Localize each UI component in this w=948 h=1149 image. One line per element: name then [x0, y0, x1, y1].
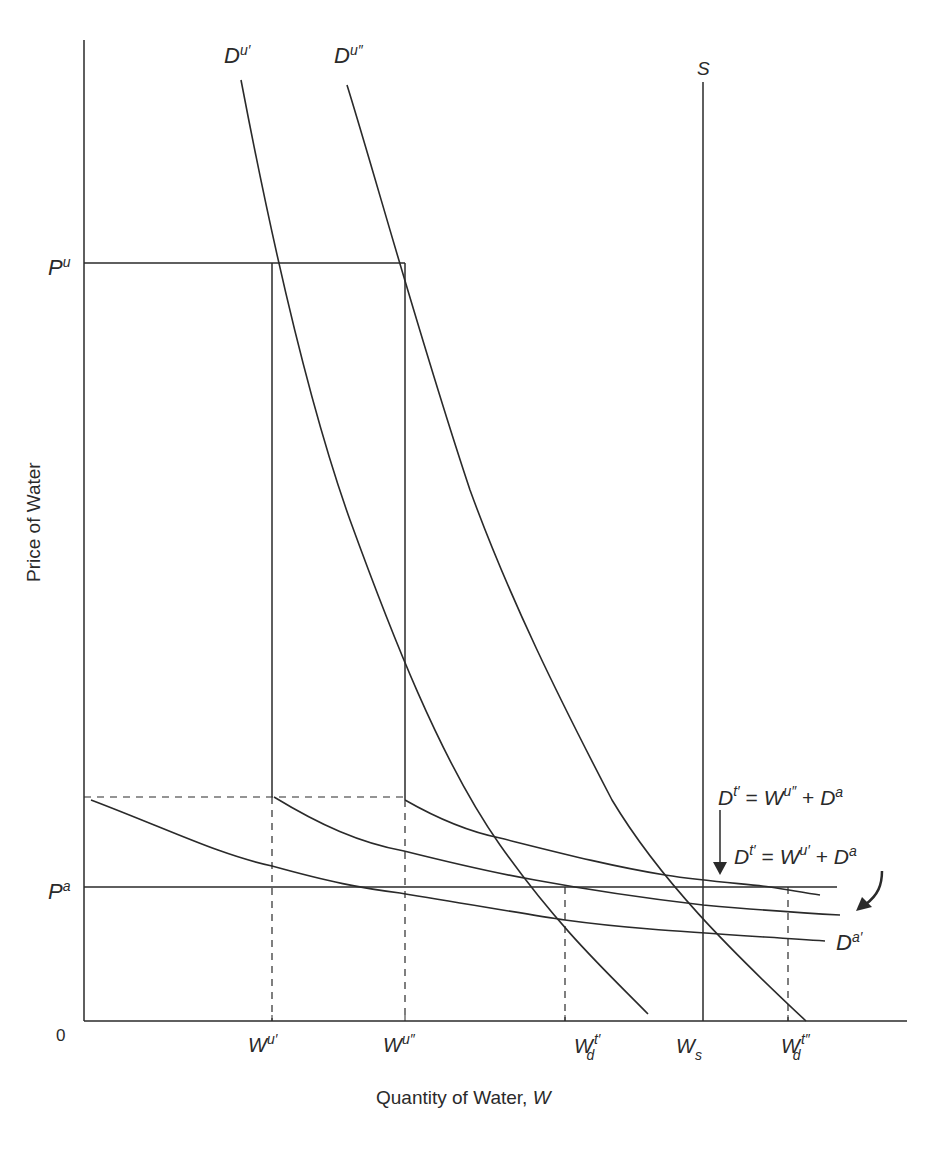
- label-da: Da′: [836, 929, 864, 955]
- equation-wu1: Dt′ = Wu′ + Da: [734, 842, 857, 868]
- label-wu1: Wu′: [248, 1031, 279, 1056]
- label-origin: 0: [56, 1026, 65, 1045]
- y-axis-title: Price of Water: [23, 462, 44, 582]
- label-supply: S: [697, 58, 710, 79]
- label-wu2: Wu″: [383, 1031, 416, 1056]
- equation-wu2: Dt′ = Wu″ + Da: [718, 783, 843, 809]
- label-du1: Du′: [224, 42, 252, 68]
- arrowhead-eq2-icon: [856, 897, 872, 911]
- label-ws: Ws: [676, 1035, 702, 1063]
- demand-curve-du2: [347, 85, 806, 1021]
- agricultural-demand-curve: [91, 800, 825, 941]
- x-axis-title: Quantity of Water, W: [376, 1087, 553, 1108]
- arrow-eq2: [866, 871, 882, 904]
- x-ticks: [272, 1015, 788, 1021]
- label-pa: Pa: [48, 878, 71, 904]
- label-wdt2: Wt″d: [781, 1031, 811, 1063]
- arrowhead-eq1-icon: [713, 862, 727, 875]
- dashed-drop-lines: [272, 797, 788, 1021]
- label-du2: Du″: [334, 42, 364, 68]
- label-wdt1: Wt′d: [574, 1031, 602, 1063]
- supply-demand-diagram: Du′ Du″ S Pu Pa 0 Wu′ Wu″ Wt′d Ws Wt″d D…: [0, 0, 948, 1149]
- label-pu: Pu: [48, 254, 71, 280]
